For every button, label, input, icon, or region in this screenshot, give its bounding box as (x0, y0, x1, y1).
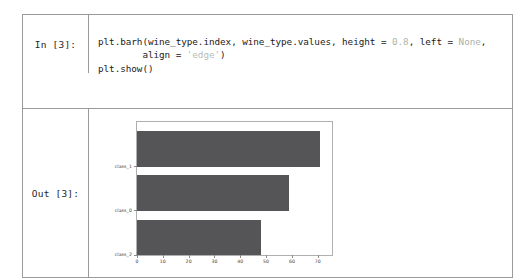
chart-xtick-label: 20 (186, 259, 192, 264)
chart-ytick-mark (134, 166, 137, 167)
chart-xtick-label: 60 (289, 259, 295, 264)
chart-xtick-mark (240, 255, 241, 258)
chart-bar (137, 175, 289, 210)
chart-xtick-mark (214, 255, 215, 258)
code-line-1: plt.barh(wine_type.index, wine_type.valu… (98, 35, 508, 48)
input-prompt-cell: In [3]: (23, 15, 89, 73)
code-text: , left = (409, 36, 459, 47)
notebook-cells-table: In [3]: plt.barh(wine_type.index, wine_t… (22, 14, 513, 278)
output-prompt-label: Out [3]: (32, 188, 79, 199)
code-number-token: 0.8 (392, 36, 409, 47)
output-result-cell: class_2class_0class_1010203040506070 (89, 109, 512, 277)
notebook-output-row: Out [3]: class_2class_0class_10102030405… (23, 109, 512, 277)
code-string-token: 'edge' (187, 49, 220, 60)
chart-bar (137, 131, 320, 166)
chart-xtick-label: 40 (237, 259, 243, 264)
chart-plot-area: class_2class_0class_1010203040506070 (136, 121, 333, 256)
code-text: , (481, 36, 487, 47)
chart-xtick-label: 10 (160, 259, 166, 264)
chart-xtick-mark (137, 255, 138, 258)
chart-bar (137, 220, 261, 255)
chart-xtick-label: 70 (315, 259, 321, 264)
chart-xtick-mark (266, 255, 267, 258)
output-prompt-cell: Out [3]: (23, 109, 89, 277)
code-editor[interactable]: plt.barh(wine_type.index, wine_type.valu… (89, 15, 512, 108)
chart-xtick-mark (292, 255, 293, 258)
code-line-2: align = 'edge') (98, 48, 508, 61)
code-none-token: None (459, 36, 481, 47)
code-line-3: plt.show() (98, 62, 508, 75)
code-text: ) (220, 49, 226, 60)
input-code-cell[interactable]: plt.barh(wine_type.index, wine_type.valu… (89, 15, 512, 108)
code-text: align = (98, 49, 187, 60)
chart-xtick-mark (189, 255, 190, 258)
chart-ytick-label: class_2 (115, 252, 132, 257)
chart-xtick-mark (163, 255, 164, 258)
chart-ytick-label: class_0 (115, 208, 132, 213)
code-text: plt.barh(wine_type.index, wine_type.valu… (98, 36, 392, 47)
chart-ytick-mark (134, 210, 137, 211)
chart-xtick-label: 50 (263, 259, 269, 264)
chart-xtick-label: 30 (211, 259, 217, 264)
output-inner: class_2class_0class_1010203040506070 (89, 109, 512, 277)
input-prompt-label: In [3]: (35, 39, 76, 50)
chart-xtick-label: 0 (135, 259, 138, 264)
notebook-input-row: In [3]: plt.barh(wine_type.index, wine_t… (23, 15, 512, 109)
chart-ytick-label: class_1 (115, 164, 132, 169)
matplotlib-figure: class_2class_0class_1010203040506070 (101, 115, 311, 271)
chart-xtick-mark (318, 255, 319, 258)
